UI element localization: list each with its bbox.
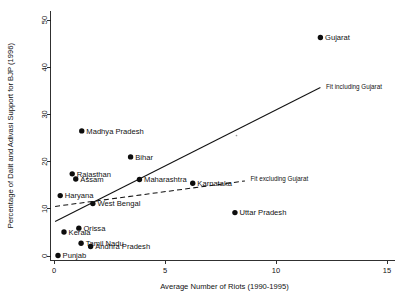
point-label: Gujarat <box>325 33 351 42</box>
y-tick-label: 40 <box>40 63 49 71</box>
point-label: Andhra Pradesh <box>95 242 150 251</box>
point-label: Assam <box>80 175 103 184</box>
fit-annotations-group: Fit including GujaratFit excluding Gujar… <box>250 83 382 183</box>
y-tick-label: 30 <box>40 110 49 118</box>
point-label: Maharashtra <box>144 175 187 184</box>
y-tick-label: 10 <box>40 205 49 213</box>
x-axis-title: Average Number of Riots (1990-1995) <box>160 282 289 291</box>
y-tick-label: 0 <box>40 254 49 258</box>
point-label: Karnataka <box>197 179 232 188</box>
point-marker <box>318 35 323 40</box>
x-tick-label: 10 <box>272 266 280 275</box>
data-point: Haryana <box>58 191 95 200</box>
data-point: Punjab <box>55 251 86 260</box>
data-point: Kerala <box>61 228 91 237</box>
point-marker <box>55 253 60 258</box>
point-marker <box>58 193 63 198</box>
data-point: Gujarat <box>318 33 351 42</box>
x-tick-label: 0 <box>52 266 56 275</box>
point-marker <box>232 210 237 215</box>
point-label: Kerala <box>69 228 92 237</box>
data-point: Maharashtra <box>137 175 188 184</box>
point-marker <box>190 181 195 186</box>
point-marker <box>73 176 78 181</box>
point-marker <box>70 171 75 176</box>
data-point: Andhra Pradesh <box>88 242 150 251</box>
x-tick-label: 5 <box>163 266 167 275</box>
y-axis-title: Percentage of Dalit and Adivasi Support … <box>7 43 16 229</box>
point-marker <box>79 128 84 133</box>
fit-annotation-label: Fit including Gujarat <box>326 83 382 91</box>
point-label: West Bengal <box>97 199 140 208</box>
point-label: Haryana <box>65 191 94 200</box>
x-tick-label: 15 <box>383 266 391 275</box>
point-marker <box>128 154 133 159</box>
point-label: Uttar Pradesh <box>240 208 287 217</box>
point-label: Punjab <box>63 251 87 260</box>
point-label: Bihar <box>135 153 153 162</box>
data-point: Karnataka <box>190 179 233 188</box>
data-point: West Bengal <box>90 199 141 208</box>
y-tick-label: 50 <box>40 16 49 24</box>
data-point: Uttar Pradesh <box>232 208 286 217</box>
point-marker <box>88 244 93 249</box>
data-point: Madhya Pradesh <box>79 127 144 136</box>
fit-line-including-gujarat <box>55 87 320 221</box>
x-axis-ticks: 051015 <box>52 261 391 275</box>
plot-canvas: 01020304050 051015 Fit including Gujarat… <box>0 0 413 299</box>
data-point: Bihar <box>128 153 153 162</box>
y-axis-ticks: 01020304050 <box>40 16 51 258</box>
y-tick-label: 20 <box>40 157 49 165</box>
point-marker <box>137 177 142 182</box>
point-marker <box>78 241 83 246</box>
stray-speck <box>236 135 238 137</box>
point-marker <box>90 201 95 206</box>
fit-lines-group <box>55 87 320 221</box>
scatter-plot-figure: 01020304050 051015 Fit including Gujarat… <box>0 0 413 299</box>
fit-annotation-label: Fit excluding Gujarat <box>250 175 308 183</box>
point-marker <box>61 229 66 234</box>
point-label: Madhya Pradesh <box>86 127 143 136</box>
